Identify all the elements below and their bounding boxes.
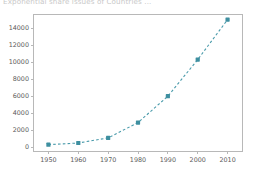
data-point-1990 bbox=[166, 94, 170, 98]
x-tick-label: 1960 bbox=[70, 156, 86, 164]
x-tick-label: 2010 bbox=[219, 156, 235, 164]
line-chart: 02000400060008000100001200014000 1950196… bbox=[0, 6, 253, 176]
plot-area-background bbox=[33, 14, 243, 152]
chart-figure: 02000400060008000100001200014000 1950196… bbox=[0, 6, 253, 176]
x-tick-label: 1970 bbox=[100, 156, 116, 164]
x-axis-ticks: 1950196019701980199020002010 bbox=[40, 152, 235, 164]
y-tick-label: 12000 bbox=[9, 41, 29, 49]
x-tick-label: 2000 bbox=[190, 156, 206, 164]
y-tick-label: 0 bbox=[25, 143, 29, 151]
y-tick-label: 8000 bbox=[13, 75, 29, 83]
x-tick-label: 1990 bbox=[160, 156, 176, 164]
y-axis-ticks: 02000400060008000100001200014000 bbox=[9, 24, 34, 151]
y-tick-label: 4000 bbox=[13, 109, 29, 117]
data-point-1950 bbox=[46, 143, 50, 147]
x-tick-label: 1980 bbox=[130, 156, 146, 164]
y-tick-label: 10000 bbox=[9, 58, 29, 66]
y-tick-label: 14000 bbox=[9, 24, 29, 32]
data-point-2000 bbox=[196, 58, 200, 62]
data-point-2010 bbox=[225, 18, 229, 22]
y-tick-label: 2000 bbox=[13, 126, 29, 134]
data-point-1970 bbox=[106, 136, 110, 140]
y-tick-label: 6000 bbox=[13, 92, 29, 100]
data-point-1980 bbox=[136, 120, 140, 124]
data-point-1960 bbox=[76, 141, 80, 145]
x-tick-label: 1950 bbox=[40, 156, 56, 164]
screenshot-root: Exponential share issues of Countries ..… bbox=[0, 0, 253, 176]
